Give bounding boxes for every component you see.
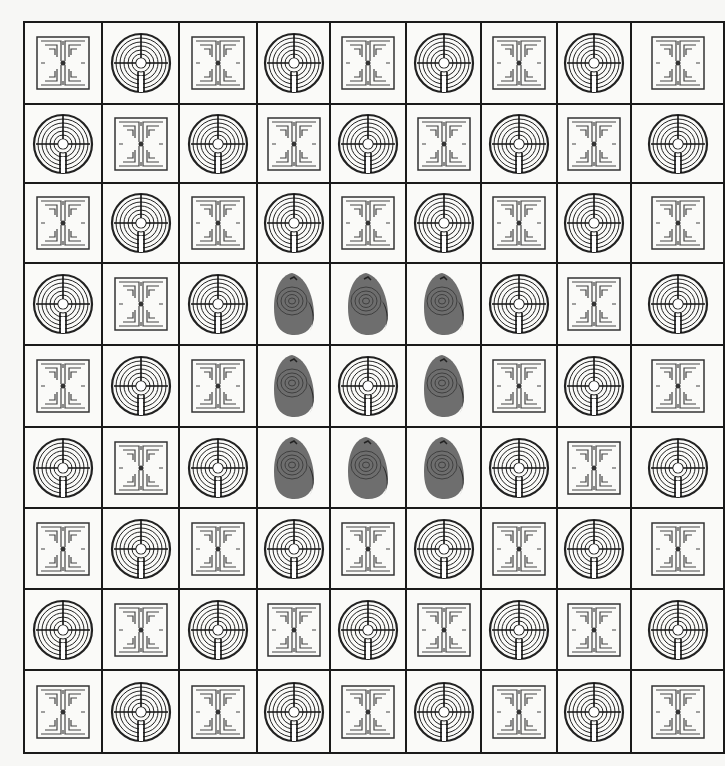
grid-cell-circular-labyrinth — [331, 346, 407, 428]
grid-cell-circular-labyrinth — [25, 428, 103, 509]
grid-cell-carved-stone-labyrinth — [258, 264, 331, 346]
grid-cell-circular-labyrinth — [407, 184, 482, 264]
grid-cell-circular-labyrinth — [632, 590, 725, 671]
square-labyrinth-icon — [491, 358, 547, 414]
grid-cell-carved-stone-labyrinth — [331, 264, 407, 346]
circular-labyrinth-icon — [488, 437, 550, 499]
grid-cell-circular-labyrinth — [558, 671, 632, 752]
grid-cell-circular-labyrinth — [180, 264, 258, 346]
grid-cell-carved-stone-labyrinth — [258, 428, 331, 509]
square-labyrinth-icon — [340, 35, 396, 91]
grid-cell-square-labyrinth — [331, 509, 407, 590]
grid-cell-square-labyrinth — [258, 590, 331, 671]
grid-cell-square-labyrinth — [331, 184, 407, 264]
grid-cell-square-labyrinth — [482, 346, 558, 428]
carved-stone-labyrinth-icon — [270, 353, 318, 419]
square-labyrinth-icon — [416, 602, 472, 658]
square-labyrinth-icon — [35, 521, 91, 577]
square-labyrinth-icon — [190, 358, 246, 414]
grid-cell-square-labyrinth — [25, 346, 103, 428]
circular-labyrinth-icon — [563, 192, 625, 254]
circular-labyrinth-icon — [187, 599, 249, 661]
circular-labyrinth-icon — [263, 32, 325, 94]
square-labyrinth-icon — [650, 521, 706, 577]
circular-labyrinth-icon — [413, 518, 475, 580]
square-labyrinth-icon — [266, 116, 322, 172]
circular-labyrinth-icon — [647, 273, 709, 335]
circular-labyrinth-icon — [563, 518, 625, 580]
grid-cell-circular-labyrinth — [482, 264, 558, 346]
grid-cell-square-labyrinth — [180, 184, 258, 264]
grid-cell-circular-labyrinth — [103, 509, 180, 590]
circular-labyrinth-icon — [488, 113, 550, 175]
circular-labyrinth-icon — [413, 192, 475, 254]
grid-cell-square-labyrinth — [103, 105, 180, 184]
grid-cell-square-labyrinth — [25, 671, 103, 752]
grid-cell-square-labyrinth — [482, 23, 558, 105]
grid-cell-circular-labyrinth — [407, 23, 482, 105]
grid-cell-carved-stone-labyrinth — [258, 346, 331, 428]
circular-labyrinth-icon — [110, 32, 172, 94]
square-labyrinth-icon — [416, 116, 472, 172]
grid-cell-circular-labyrinth — [258, 671, 331, 752]
circular-labyrinth-icon — [563, 32, 625, 94]
grid-cell-square-labyrinth — [180, 23, 258, 105]
grid-cell-square-labyrinth — [331, 671, 407, 752]
grid-cell-circular-labyrinth — [407, 509, 482, 590]
grid-cell-square-labyrinth — [632, 184, 725, 264]
grid-cell-circular-labyrinth — [258, 184, 331, 264]
grid-cell-circular-labyrinth — [331, 590, 407, 671]
square-labyrinth-icon — [491, 684, 547, 740]
square-labyrinth-icon — [650, 35, 706, 91]
square-labyrinth-icon — [566, 276, 622, 332]
grid-cell-circular-labyrinth — [258, 23, 331, 105]
grid-cell-circular-labyrinth — [180, 105, 258, 184]
grid-cell-square-labyrinth — [25, 23, 103, 105]
square-labyrinth-icon — [491, 195, 547, 251]
square-labyrinth-icon — [113, 116, 169, 172]
carved-stone-labyrinth-icon — [270, 435, 318, 501]
grid-cell-square-labyrinth — [558, 264, 632, 346]
square-labyrinth-icon — [35, 35, 91, 91]
grid-cell-carved-stone-labyrinth — [331, 428, 407, 509]
circular-labyrinth-icon — [413, 32, 475, 94]
grid-cell-circular-labyrinth — [482, 590, 558, 671]
grid-cell-circular-labyrinth — [180, 428, 258, 509]
grid-cell-circular-labyrinth — [482, 428, 558, 509]
grid-cell-square-labyrinth — [482, 184, 558, 264]
grid-cell-circular-labyrinth — [558, 346, 632, 428]
carved-stone-labyrinth-icon — [344, 271, 392, 337]
square-labyrinth-icon — [266, 602, 322, 658]
circular-labyrinth-icon — [32, 437, 94, 499]
square-labyrinth-icon — [190, 195, 246, 251]
carved-stone-labyrinth-icon — [270, 271, 318, 337]
grid-cell-circular-labyrinth — [25, 105, 103, 184]
square-labyrinth-icon — [566, 440, 622, 496]
square-labyrinth-icon — [650, 358, 706, 414]
grid-cell-square-labyrinth — [331, 23, 407, 105]
grid-cell-square-labyrinth — [103, 428, 180, 509]
grid-cell-circular-labyrinth — [103, 346, 180, 428]
circular-labyrinth-icon — [32, 599, 94, 661]
square-labyrinth-icon — [491, 35, 547, 91]
grid-cell-circular-labyrinth — [558, 509, 632, 590]
square-labyrinth-icon — [340, 684, 396, 740]
grid-cell-circular-labyrinth — [558, 23, 632, 105]
grid-cell-square-labyrinth — [180, 346, 258, 428]
circular-labyrinth-icon — [263, 518, 325, 580]
carved-stone-labyrinth-icon — [420, 435, 468, 501]
grid-cell-circular-labyrinth — [632, 264, 725, 346]
grid-cell-square-labyrinth — [482, 671, 558, 752]
grid-cell-square-labyrinth — [558, 590, 632, 671]
square-labyrinth-icon — [340, 195, 396, 251]
grid-cell-circular-labyrinth — [407, 671, 482, 752]
grid-cell-square-labyrinth — [482, 509, 558, 590]
circular-labyrinth-icon — [647, 437, 709, 499]
carved-stone-labyrinth-icon — [420, 271, 468, 337]
square-labyrinth-icon — [113, 276, 169, 332]
circular-labyrinth-icon — [263, 192, 325, 254]
circular-labyrinth-icon — [563, 355, 625, 417]
circular-labyrinth-icon — [647, 113, 709, 175]
circular-labyrinth-icon — [563, 681, 625, 743]
circular-labyrinth-icon — [110, 681, 172, 743]
